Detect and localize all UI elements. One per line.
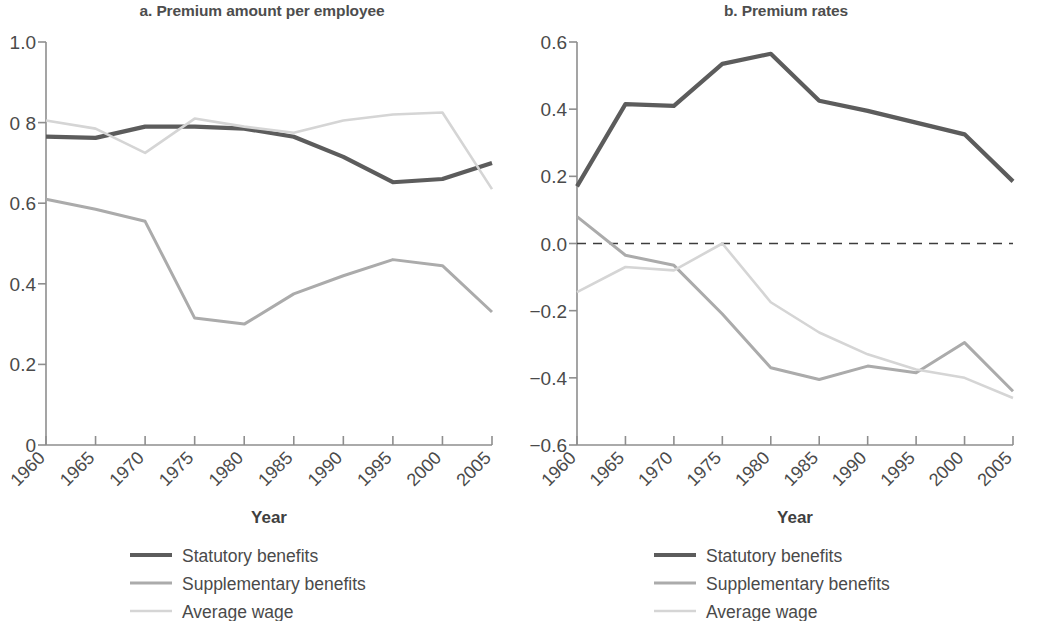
x-tick-label: 1990 <box>304 448 346 490</box>
panel-a-svg: 00.20.40.60 81.0 19601965197019751980198… <box>0 0 524 621</box>
panel-a-y-ticks: 00.20.40.60 81.0 <box>10 32 46 456</box>
x-tick-label: 2005 <box>452 448 494 490</box>
panel-b-x-ticks: 1960196519701975198019851990199520002005 <box>537 436 1015 490</box>
x-tick-label: 1995 <box>876 448 918 490</box>
panel-a-legend: Statutory benefitsSupplementary benefits… <box>130 546 366 621</box>
y-tick-label: 0.4 <box>541 99 568 120</box>
series-line-statutory-benefits <box>46 127 492 183</box>
x-tick-label: 1995 <box>353 448 395 490</box>
series-line-average-wage <box>46 113 492 190</box>
panel-a-series <box>46 113 492 325</box>
x-tick-label: 2000 <box>403 448 445 490</box>
y-tick-label: 0.0 <box>541 234 567 255</box>
x-tick-label: 1975 <box>155 448 197 490</box>
y-tick-label: −0.4 <box>529 368 567 389</box>
y-tick-label: 0 8 <box>10 113 36 134</box>
panel-b-series <box>577 54 1013 398</box>
x-tick-label: 1985 <box>780 448 822 490</box>
series-line-statutory-benefits <box>577 54 1013 187</box>
x-tick-label: 2000 <box>925 448 967 490</box>
panel-a-plot: 00.20.40.60 81.0 19601965197019751980198… <box>0 0 524 621</box>
figure-root: a. Premium amount per employee 00.20.40.… <box>0 0 1049 621</box>
panel-a-axis-title: Year <box>251 508 287 527</box>
panel-b-plot: −0.6−0.4−0.20.00.20.40.6 196019651970197… <box>524 0 1048 621</box>
y-tick-label: 0.6 <box>541 32 567 53</box>
y-tick-label: 0.6 <box>10 193 36 214</box>
panel-b-y-ticks: −0.6−0.4−0.20.00.20.40.6 <box>529 32 577 456</box>
x-tick-label: 2005 <box>973 448 1015 490</box>
x-tick-label: 1965 <box>586 448 628 490</box>
x-tick-label: 1985 <box>254 448 296 490</box>
legend-label-statutory-benefits: Statutory benefits <box>182 546 318 566</box>
panel-a-axes <box>46 42 492 445</box>
y-tick-label: 0.4 <box>10 274 37 295</box>
y-tick-label: 0.2 <box>10 354 36 375</box>
x-tick-label: 1990 <box>828 448 870 490</box>
y-tick-label: 1.0 <box>10 32 36 53</box>
x-tick-label: 1980 <box>731 448 773 490</box>
x-tick-label: 1965 <box>56 448 98 490</box>
legend-label-supplementary-benefits: Supplementary benefits <box>182 574 366 594</box>
panel-b: b. Premium rates −0.6−0.4−0.20.00.20.40.… <box>524 0 1048 621</box>
panel-b-svg: −0.6−0.4−0.20.00.20.40.6 196019651970197… <box>524 0 1049 621</box>
legend-label-average-wage: Average wage <box>706 602 818 621</box>
legend-label-statutory-benefits: Statutory benefits <box>706 546 842 566</box>
series-line-supplementary-benefits <box>46 199 492 324</box>
x-tick-label: 1970 <box>634 448 676 490</box>
x-tick-label: 1980 <box>205 448 247 490</box>
panel-a: a. Premium amount per employee 00.20.40.… <box>0 0 524 621</box>
y-tick-label: 0.2 <box>541 166 567 187</box>
panel-a-x-ticks: 1960196519701975198019851990199520002005 <box>6 436 494 490</box>
legend-label-supplementary-benefits: Supplementary benefits <box>706 574 890 594</box>
panel-b-legend: Statutory benefitsSupplementary benefits… <box>654 546 890 621</box>
x-tick-label: 1975 <box>683 448 725 490</box>
x-tick-label: 1960 <box>6 448 48 490</box>
x-tick-label: 1970 <box>105 448 147 490</box>
y-tick-label: −0.2 <box>529 301 567 322</box>
legend-label-average-wage: Average wage <box>182 602 294 621</box>
panel-b-axis-title: Year <box>777 508 813 527</box>
